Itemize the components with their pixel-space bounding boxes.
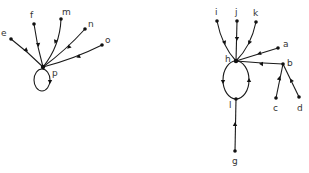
- label-p: p: [52, 68, 58, 78]
- node-j: [235, 19, 239, 23]
- arrow-icon: [221, 80, 225, 84]
- left-graph: e f m n o p: [1, 7, 111, 91]
- node-p: [41, 65, 45, 69]
- node-m: [59, 17, 63, 21]
- label-h: h: [225, 54, 231, 64]
- edge-o-p: [43, 45, 102, 67]
- node-a: [276, 46, 280, 50]
- label-n: n: [88, 19, 94, 29]
- label-g: g: [232, 156, 238, 166]
- label-f: f: [30, 10, 34, 20]
- label-b: b: [287, 58, 293, 68]
- edge-j-h: [236, 21, 237, 61]
- node-d: [297, 95, 301, 99]
- node-f: [32, 22, 36, 26]
- label-j: j: [234, 7, 238, 17]
- node-g: [233, 149, 237, 153]
- label-i: i: [215, 7, 218, 17]
- graph-canvas: e f m n o p: [0, 0, 309, 173]
- node-e: [9, 37, 13, 41]
- label-k: k: [253, 8, 259, 18]
- label-m: m: [62, 7, 71, 17]
- arrow-icon: [288, 77, 294, 83]
- label-o: o: [105, 35, 111, 45]
- label-a: a: [283, 39, 289, 49]
- arrow-icon: [36, 43, 41, 48]
- right-graph: i j k h a b c d l g: [215, 7, 303, 166]
- arrow-icon: [235, 37, 240, 41]
- arrow-icon: [257, 51, 262, 56]
- arrow-icon: [277, 76, 282, 81]
- edge-h-l-cycle: [223, 61, 249, 99]
- edge-k-h: [236, 22, 256, 61]
- node-h: [234, 59, 238, 63]
- node-n: [83, 27, 87, 31]
- node-c: [274, 96, 278, 100]
- label-l: l: [229, 100, 232, 110]
- edge-p-self-loop: [34, 69, 50, 91]
- node-b: [281, 62, 285, 66]
- node-k: [254, 20, 258, 24]
- label-e: e: [1, 28, 7, 38]
- label-c: c: [273, 103, 278, 113]
- node-l: [234, 97, 238, 101]
- label-d: d: [297, 103, 303, 113]
- node-o: [100, 43, 104, 47]
- arrow-icon: [247, 78, 251, 82]
- arrow-icon: [48, 80, 52, 84]
- arrow-icon: [233, 122, 237, 126]
- arrow-icon: [246, 40, 252, 45]
- edge-c-b: [276, 64, 283, 98]
- node-i: [215, 19, 219, 23]
